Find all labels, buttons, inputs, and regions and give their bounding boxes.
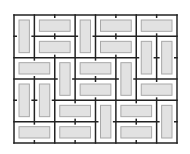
domino-tile [101, 20, 132, 31]
domino-tile [162, 105, 172, 138]
domino-horizontal [17, 125, 52, 140]
domino-horizontal [139, 82, 174, 97]
domino-tile [19, 127, 50, 138]
domino-tile [141, 84, 172, 95]
domino-tile [80, 63, 111, 74]
domino-tile [101, 41, 132, 52]
domino-tile [121, 127, 152, 138]
domino-horizontal [37, 39, 72, 54]
domino-tile [80, 84, 111, 95]
domino-tile [121, 63, 131, 96]
domino-tile [121, 105, 152, 116]
domino-tile [141, 20, 172, 31]
domino-tile [141, 41, 151, 74]
domino-vertical [160, 103, 174, 140]
domino-horizontal [99, 39, 134, 54]
domino-tile [19, 63, 50, 74]
domino-horizontal [78, 82, 113, 97]
domino-horizontal [119, 103, 154, 118]
domino-tile [19, 84, 29, 117]
domino-tile [162, 41, 172, 74]
domino-vertical [37, 82, 51, 119]
domino-vertical [58, 61, 72, 98]
domino-tile [80, 20, 90, 53]
domino-tile [101, 105, 111, 138]
domino-horizontal [99, 18, 134, 33]
domino-vertical [78, 18, 92, 55]
domino-horizontal [17, 61, 52, 76]
domino-vertical [160, 39, 174, 76]
tiling-canvas [0, 0, 190, 154]
domino-vertical [17, 18, 31, 55]
domino-tile [39, 84, 49, 117]
domino-tile [60, 105, 91, 116]
domino-horizontal [37, 18, 72, 33]
domino-tile [60, 63, 70, 96]
domino-horizontal [119, 125, 154, 140]
domino-horizontal [58, 125, 93, 140]
domino-horizontal [139, 18, 174, 33]
domino-vertical [119, 61, 133, 98]
domino-vertical [17, 82, 31, 119]
domino-tile [39, 20, 70, 31]
domino-horizontal [78, 61, 113, 76]
domino-tile [60, 127, 91, 138]
domino-vertical [139, 39, 153, 76]
domino-tiling-diagram [0, 0, 190, 154]
domino-vertical [99, 103, 113, 140]
domino-horizontal [58, 103, 93, 118]
grid-lines [14, 15, 177, 143]
domino-tile [39, 41, 70, 52]
domino-tile [19, 20, 29, 53]
